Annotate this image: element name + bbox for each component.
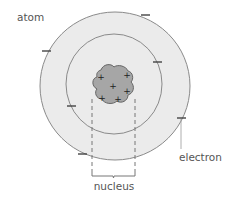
proton-charge: + [109,81,117,91]
proton-charge: + [98,93,106,103]
proton-charge: + [97,72,105,82]
atom-diagram: + + + + + + atom electron nucleus [0,0,235,207]
proton-charge: + [114,94,122,104]
nucleus: + + + + + + [93,65,134,104]
nucleus-brace [92,173,135,178]
atom-label: atom [17,11,44,23]
electron-label: electron [179,151,222,163]
nucleus-label: nucleus [94,180,135,192]
proton-charge: + [123,70,131,80]
proton-charge: + [123,86,131,96]
